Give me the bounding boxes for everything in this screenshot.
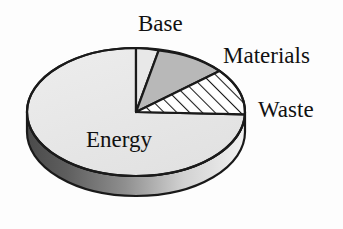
pie-slices xyxy=(27,48,245,176)
pie-label-base: Base xyxy=(138,12,183,35)
pie-label-waste: Waste xyxy=(258,98,314,121)
pie-label-energy: Energy xyxy=(86,128,152,151)
pie-chart-figure: Base Materials Waste Energy xyxy=(0,0,343,229)
pie-label-materials: Materials xyxy=(223,44,310,67)
